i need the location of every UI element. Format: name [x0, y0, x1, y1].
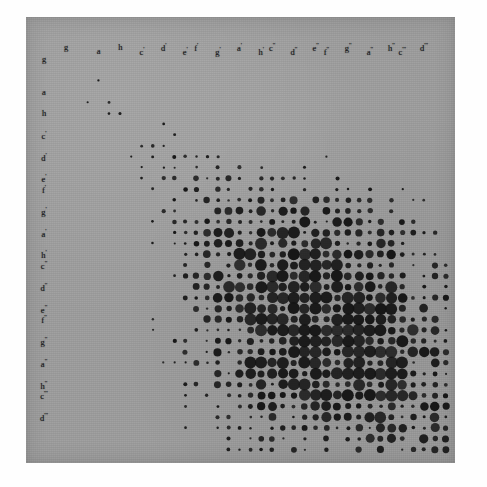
- matrix-dot: [204, 262, 210, 268]
- matrix-dot: [228, 351, 230, 353]
- matrix-canvas: [26, 17, 455, 463]
- matrix-dot: [174, 167, 176, 169]
- matrix-dot: [288, 248, 300, 260]
- matrix-dot: [412, 253, 415, 256]
- matrix-dot: [422, 393, 427, 398]
- matrix-dot: [206, 177, 208, 179]
- matrix-dot: [292, 416, 295, 419]
- matrix-dot: [255, 259, 267, 271]
- matrix-dot: [387, 424, 396, 433]
- matrix-dot: [257, 228, 266, 237]
- matrix-dot: [332, 250, 341, 259]
- matrix-dot: [323, 251, 330, 258]
- matrix-dot: [248, 187, 252, 191]
- matrix-dot: [269, 338, 274, 343]
- x-tick-label-0: g: [64, 43, 68, 52]
- matrix-dot: [443, 349, 449, 355]
- matrix-dot: [419, 434, 428, 443]
- matrix-dot: [249, 437, 251, 439]
- matrix-dot: [331, 335, 343, 347]
- matrix-dot: [214, 239, 223, 248]
- matrix-dot: [193, 273, 199, 279]
- matrix-dot: [422, 327, 427, 332]
- matrix-dot: [444, 307, 446, 309]
- matrix-dot: [141, 166, 143, 168]
- matrix-dot: [336, 427, 339, 430]
- matrix-dot: [271, 209, 274, 212]
- matrix-dot: [310, 368, 322, 380]
- matrix-dot: [204, 219, 209, 224]
- matrix-dot: [343, 358, 353, 368]
- matrix-dot: [163, 167, 165, 169]
- matrix-dot: [226, 263, 230, 267]
- matrix-dot: [331, 259, 343, 271]
- matrix-dot: [301, 240, 308, 247]
- matrix-dot: [277, 292, 289, 304]
- matrix-dot: [364, 346, 376, 358]
- matrix-dot: [247, 338, 254, 345]
- matrix-dot: [335, 241, 340, 246]
- matrix-dot: [365, 281, 376, 292]
- matrix-dot: [443, 295, 449, 301]
- matrix-dot: [388, 315, 397, 324]
- matrix-dot: [331, 270, 343, 282]
- matrix-dot: [244, 357, 256, 369]
- matrix-dot: [238, 177, 241, 180]
- matrix-dot: [422, 316, 427, 321]
- matrix-dot: [369, 427, 371, 429]
- matrix-dot: [432, 294, 438, 300]
- matrix-dot: [411, 296, 415, 300]
- matrix-dot: [277, 324, 289, 336]
- matrix-dot: [260, 415, 263, 418]
- y-tick-label-14: g'': [41, 336, 48, 346]
- matrix-dot: [310, 260, 322, 272]
- matrix-dot: [174, 242, 176, 244]
- matrix-dot: [420, 402, 429, 411]
- matrix-dot: [309, 270, 321, 282]
- matrix-dot: [443, 360, 448, 365]
- matrix-dot: [345, 403, 351, 409]
- matrix-dot: [385, 281, 397, 293]
- matrix-dot: [444, 285, 447, 288]
- matrix-dot: [216, 177, 220, 181]
- matrix-dot: [256, 206, 266, 216]
- matrix-dot: [412, 199, 414, 201]
- matrix-dot: [269, 252, 275, 258]
- matrix-dot: [311, 239, 321, 249]
- matrix-dot: [269, 413, 277, 421]
- matrix-dot: [204, 273, 211, 280]
- matrix-dot: [277, 270, 289, 282]
- matrix-dot: [249, 241, 253, 245]
- matrix-dot: [411, 405, 414, 408]
- matrix-dot: [346, 197, 352, 203]
- y-tick-label-5: e': [41, 173, 46, 183]
- y-tick-label-11: d'': [41, 282, 48, 292]
- matrix-dot: [407, 324, 418, 335]
- matrix-dot: [140, 145, 143, 148]
- matrix-dot: [367, 381, 373, 387]
- matrix-dot: [203, 315, 210, 322]
- matrix-dot: [290, 262, 298, 270]
- matrix-dot: [193, 306, 199, 312]
- matrix-dot: [184, 426, 187, 429]
- matrix-dot: [388, 327, 396, 335]
- matrix-dot: [421, 338, 426, 343]
- matrix-dot: [376, 423, 385, 432]
- matrix-dot: [379, 404, 383, 408]
- matrix-dot: [213, 348, 221, 356]
- matrix-dot: [353, 302, 365, 314]
- matrix-dot: [206, 155, 209, 158]
- matrix-dot: [342, 292, 354, 304]
- matrix-dot: [267, 325, 277, 335]
- matrix-dot: [309, 303, 321, 315]
- matrix-dot: [271, 383, 274, 386]
- matrix-dot: [324, 284, 330, 290]
- matrix-dot: [173, 231, 176, 234]
- matrix-dot: [182, 350, 187, 355]
- matrix-dot: [255, 281, 267, 293]
- matrix-dot: [299, 379, 311, 391]
- matrix-dot: [204, 241, 210, 247]
- matrix-dot: [269, 447, 274, 452]
- matrix-dot: [216, 198, 220, 202]
- matrix-dot: [374, 346, 386, 358]
